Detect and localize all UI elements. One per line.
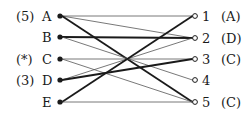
left-label-A: A (41, 9, 52, 24)
filled-dot-icon (57, 99, 62, 104)
filled-dot-icon (57, 56, 62, 61)
right-label-4: 4 (202, 73, 210, 88)
open-circle-icon (193, 36, 198, 41)
filled-dot-icon (57, 34, 62, 39)
left-label-B: B (42, 30, 52, 45)
edge-C-5 (62, 59, 193, 102)
right-suffix-3: (C) (221, 52, 241, 67)
left-label-E: E (42, 95, 52, 110)
right-suffix-5: (C) (221, 95, 241, 110)
left-nodes: (5)AB(*)C(3)DE (16, 9, 63, 110)
right-label-3: 3 (202, 52, 210, 67)
edges (62, 16, 193, 102)
right-label-5: 5 (202, 95, 210, 110)
edge-B-2 (62, 37, 193, 38)
edge-D-3 (62, 59, 193, 80)
open-circle-icon (193, 100, 198, 105)
left-label-D: D (42, 73, 52, 88)
bipartite-diagram: (5)AB(*)C(3)DE 1(A)2(D)3(C)45(C) (0, 0, 251, 119)
filled-dot-icon (57, 77, 62, 82)
edge-A-2 (62, 16, 193, 38)
open-circle-icon (193, 14, 198, 19)
left-prefix-C: (*) (16, 52, 33, 67)
filled-dot-icon (57, 13, 62, 18)
left-prefix-D: (3) (16, 73, 34, 88)
open-circle-icon (193, 57, 198, 62)
right-suffix-1: (A) (221, 9, 241, 24)
left-prefix-A: (5) (16, 9, 34, 24)
left-label-C: C (42, 52, 52, 67)
open-circle-icon (193, 78, 198, 83)
right-label-1: 1 (202, 9, 210, 24)
right-nodes: 1(A)2(D)3(C)45(C) (193, 9, 242, 110)
right-suffix-2: (D) (221, 31, 242, 46)
right-label-2: 2 (202, 31, 210, 46)
